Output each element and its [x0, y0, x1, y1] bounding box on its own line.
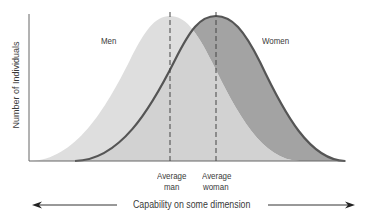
- women-label: Women: [262, 36, 289, 46]
- distribution-diagram: Men Women Number of Individuals Average …: [0, 0, 371, 223]
- average-woman-label-line2: woman: [203, 182, 229, 192]
- average-man-label-line2: man: [164, 182, 179, 192]
- x-axis-label: Capability on some dimension: [133, 199, 250, 210]
- men-label: Men: [101, 36, 116, 46]
- average-woman-label-line1: Average: [202, 171, 231, 181]
- y-axis-label: Number of Individuals: [11, 35, 21, 135]
- diagram-canvas: [0, 0, 371, 223]
- average-man-label-line1: Average: [157, 171, 186, 181]
